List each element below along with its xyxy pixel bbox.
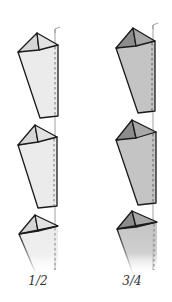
piece-right-2 xyxy=(116,120,156,205)
folded-pieces-diagram xyxy=(0,0,172,302)
piece-left-3 xyxy=(19,215,58,274)
column-right xyxy=(116,23,158,274)
column-label-right: 3/4 xyxy=(112,274,152,288)
piece-right-1 xyxy=(116,28,155,113)
hook-right xyxy=(153,23,158,29)
hook-left xyxy=(55,27,60,33)
column-left xyxy=(18,27,60,274)
piece-left-2 xyxy=(18,125,57,208)
piece-right-3 xyxy=(117,211,157,274)
piece-left-1 xyxy=(18,33,58,118)
column-label-left: 1/2 xyxy=(18,274,58,288)
